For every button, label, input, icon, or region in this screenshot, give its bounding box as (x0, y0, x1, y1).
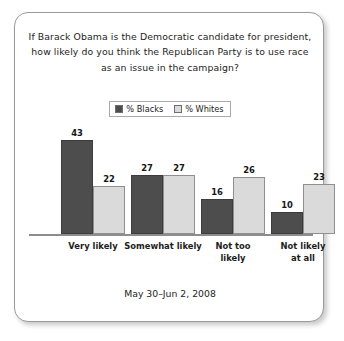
bar-value-label: 23 (303, 172, 335, 182)
chart-category-labels: Very likelySomewhat likelyNot toolikelyN… (31, 240, 311, 280)
legend-swatch-whites (174, 105, 182, 113)
bar-value-label: 10 (271, 200, 303, 210)
chart-card: If Barack Obama is the Democratic candid… (14, 12, 324, 322)
category-label-line: at all (262, 252, 344, 264)
chart-plot-area: 4322272716261023 (31, 125, 311, 234)
bar-blacks (131, 175, 163, 234)
bar-value-label: 16 (201, 187, 233, 197)
legend-box: % Blacks % Whites (109, 101, 230, 117)
chart-title-line-2: how likely do you think the Republican P… (27, 44, 313, 59)
bar-whites (93, 186, 125, 234)
bar-value-label: 22 (93, 174, 125, 184)
bar-value-label: 26 (233, 165, 265, 175)
bar-value-label: 27 (131, 163, 163, 173)
bar-value-label: 43 (61, 128, 93, 138)
chart-title-line-1: If Barack Obama is the Democratic candid… (27, 29, 313, 44)
bar-slot: 16 (201, 125, 233, 234)
bar-group: 4322 (61, 125, 125, 234)
category-label-line: Not likely (262, 240, 344, 252)
bar-value-label: 27 (163, 163, 195, 173)
chart-date-range: May 30–Jun 2, 2008 (15, 288, 325, 299)
bar-slot: 43 (61, 125, 93, 234)
bar-whites (163, 175, 195, 234)
bar-group: 1023 (271, 125, 335, 234)
bar-whites (233, 177, 265, 234)
bar-whites (303, 184, 335, 234)
bar-slot: 23 (303, 125, 335, 234)
chart-legend: % Blacks % Whites (15, 101, 325, 117)
legend-swatch-blacks (115, 105, 123, 113)
bar-blacks (271, 212, 303, 234)
legend-entry-blacks: % Blacks (115, 104, 163, 114)
category-label: Not likelyat all (262, 240, 344, 265)
chart-title-line-3: as an issue in the campaign? (27, 60, 313, 75)
legend-label-blacks: % Blacks (126, 104, 163, 114)
bar-slot: 26 (233, 125, 265, 234)
chart-baseline-axis (29, 234, 313, 236)
chart-title: If Barack Obama is the Democratic candid… (27, 29, 313, 75)
bar-group: 1626 (201, 125, 265, 234)
legend-entry-whites: % Whites (174, 104, 223, 114)
bar-slot: 22 (93, 125, 125, 234)
bar-slot: 27 (131, 125, 163, 234)
legend-label-whites: % Whites (185, 104, 223, 114)
bar-blacks (201, 199, 233, 234)
bar-slot: 27 (163, 125, 195, 234)
bar-slot: 10 (271, 125, 303, 234)
bar-group: 2727 (131, 125, 195, 234)
bar-blacks (61, 140, 93, 234)
